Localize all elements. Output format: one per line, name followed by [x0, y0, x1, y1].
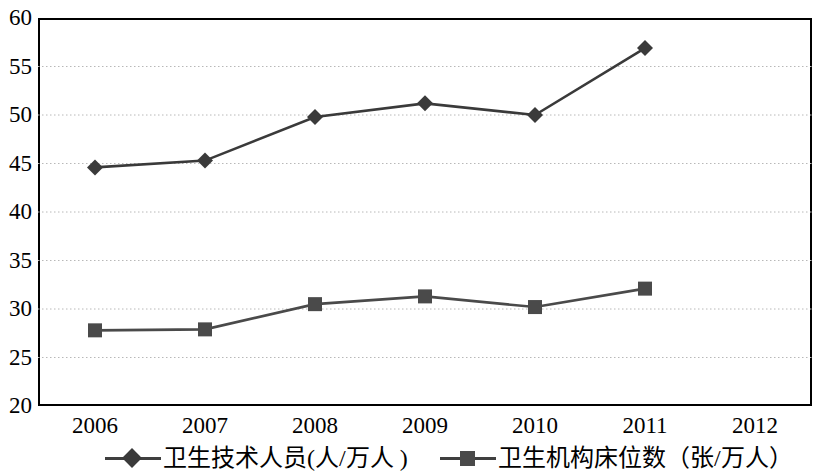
legend-label-series-2: 卫生机构床位数（张/万人） [498, 445, 793, 471]
x-axis-tick-label: 2008 [275, 412, 355, 440]
x-axis-tick-label: 2009 [385, 412, 465, 440]
x-axis-tick-label: 2010 [495, 412, 575, 440]
y-axis-tick-label: 50 [0, 103, 32, 126]
x-axis-tick-label: 2007 [165, 412, 245, 440]
y-axis-tick-label: 35 [0, 249, 32, 272]
y-axis-tick-label: 30 [0, 297, 32, 320]
square-marker-icon [440, 448, 496, 468]
legend-item-series-2[interactable]: 卫生机构床位数（张/万人） [440, 443, 793, 473]
y-axis-tick-label: 55 [0, 55, 32, 78]
x-axis-tick-label: 2006 [55, 412, 135, 440]
x-axis-tick-label: 2011 [605, 412, 685, 440]
x-axis-tick-labels: 2006200720082009201020112012 [0, 412, 815, 446]
legend-label-series-1: 卫生技术人员(人/万人 ) [163, 445, 408, 471]
x-axis-tick-label: 2012 [715, 412, 795, 440]
diamond-marker-icon [105, 448, 161, 468]
y-axis-tick-label: 40 [0, 200, 32, 223]
y-axis-tick-label: 25 [0, 346, 32, 369]
legend-item-series-1[interactable]: 卫生技术人员(人/万人 ) [105, 443, 408, 473]
chart-legend: 卫生技术人员(人/万人 ) 卫生机构床位数（张/万人） [0, 443, 815, 475]
y-axis-tick-label: 60 [0, 6, 32, 29]
y-axis-tick-labels: 202530354045505560 [0, 0, 815, 475]
line-chart: 202530354045505560 200620072008200920102… [0, 0, 815, 475]
y-axis-tick-label: 45 [0, 152, 32, 175]
